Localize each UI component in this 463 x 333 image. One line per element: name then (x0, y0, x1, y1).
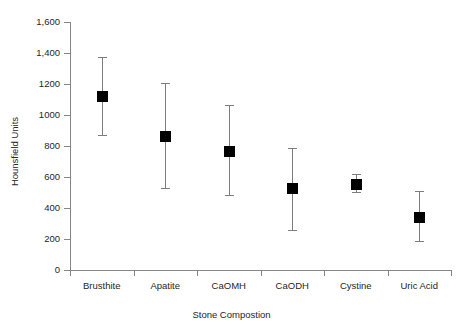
x-tick-label: Brusthite (70, 281, 134, 291)
x-tick (451, 270, 452, 276)
data-point-marker (224, 146, 235, 157)
error-bar-cap-lower (161, 188, 170, 189)
y-tick (64, 239, 70, 240)
x-tick (197, 270, 198, 276)
y-tick (64, 84, 70, 85)
y-tick-label: 200 (44, 234, 60, 244)
error-bar-cap-upper (288, 148, 297, 149)
y-tick (64, 177, 70, 178)
data-point-marker (287, 183, 298, 194)
y-tick (64, 146, 70, 147)
y-tick-label: 1200 (39, 79, 60, 89)
x-tick (261, 270, 262, 276)
y-tick (64, 53, 70, 54)
data-point-marker (414, 212, 425, 223)
data-point-marker (351, 179, 362, 190)
error-bar-cap-upper (352, 174, 361, 175)
x-tick-label: CaOMH (197, 281, 261, 291)
y-tick-label: 600 (44, 172, 60, 182)
error-bar-cap-upper (161, 83, 170, 84)
x-tick-label: Apatite (134, 281, 198, 291)
error-bar-cap-lower (98, 135, 107, 136)
y-tick-label: 0 (55, 265, 60, 275)
y-tick-label: 400 (44, 203, 60, 213)
y-tick (64, 22, 70, 23)
x-axis-title: Stone Compostion (0, 309, 463, 320)
y-tick (64, 208, 70, 209)
error-bar-cap-lower (225, 195, 234, 196)
error-bar-cap-upper (225, 105, 234, 106)
y-tick-label: 800 (44, 141, 60, 151)
x-tick (388, 270, 389, 276)
x-tick (134, 270, 135, 276)
error-bar-cap-lower (288, 230, 297, 231)
y-tick-label: 1,600 (36, 17, 60, 27)
chart-container: Hounsfield Units 1,6001,4001200100080060… (0, 0, 463, 333)
error-bar-cap-upper (415, 191, 424, 192)
y-tick-label: 1,400 (36, 48, 60, 58)
y-tick (64, 115, 70, 116)
x-tick-label: Uric Acid (388, 281, 452, 291)
data-point-marker (97, 91, 108, 102)
error-bar-cap-lower (352, 192, 361, 193)
error-bar-cap-lower (415, 241, 424, 242)
y-axis-line (70, 22, 71, 271)
x-tick-label: CaODH (261, 281, 325, 291)
y-axis-title: Hounsfield Units (9, 92, 20, 212)
x-tick (70, 270, 71, 276)
error-bar-cap-upper (98, 57, 107, 58)
data-point-marker (160, 131, 171, 142)
y-tick-label: 1000 (39, 110, 60, 120)
x-tick-label: Cystine (324, 281, 388, 291)
x-tick (324, 270, 325, 276)
